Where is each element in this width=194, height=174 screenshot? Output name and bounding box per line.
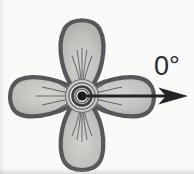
radiation-pattern-figure: 0° <box>0 0 194 174</box>
pattern-diagram <box>0 0 194 174</box>
reference-angle-label: 0° <box>154 53 180 80</box>
